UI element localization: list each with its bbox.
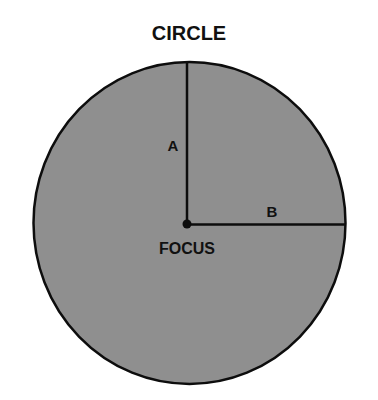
label-b: B bbox=[267, 203, 278, 220]
label-focus: FOCUS bbox=[159, 240, 215, 257]
circle-diagram: CIRCLE A B FOCUS bbox=[0, 0, 378, 400]
diagram-title: CIRCLE bbox=[152, 22, 226, 44]
diagram-canvas: CIRCLE A B FOCUS bbox=[0, 0, 378, 400]
focus-point bbox=[183, 220, 192, 229]
label-a: A bbox=[168, 137, 179, 154]
